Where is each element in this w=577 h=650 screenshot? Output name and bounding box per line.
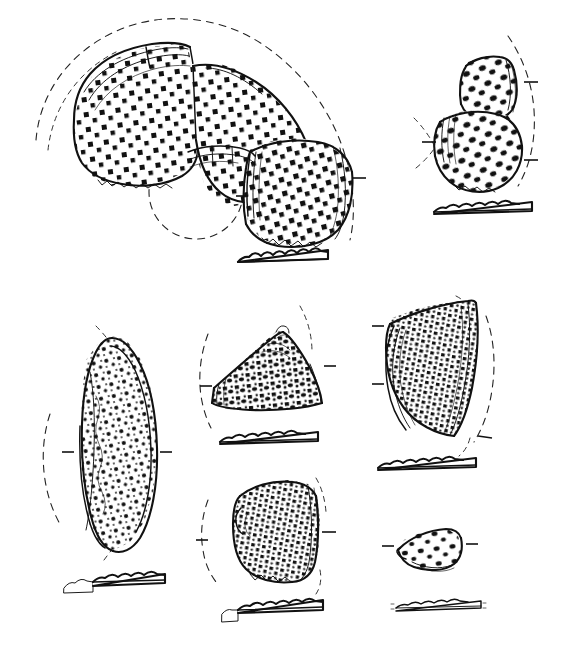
illustration-plate: Pottery Sherd Illustration Plate bbox=[0, 0, 577, 650]
plate-canvas bbox=[0, 0, 577, 650]
